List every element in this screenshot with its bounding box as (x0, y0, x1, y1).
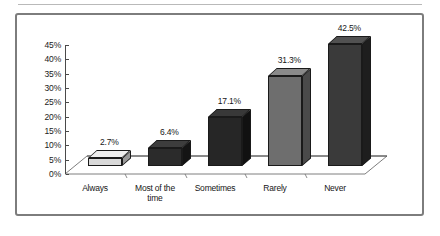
bar-front-face (208, 117, 242, 166)
y-axis-tick-mark (66, 88, 69, 89)
bar-side-face (362, 36, 371, 166)
bar-column (268, 76, 302, 166)
bar-side-face (302, 68, 311, 166)
y-axis-tick-label: 45% (31, 40, 61, 50)
y-axis-tick-label: 35% (31, 69, 61, 79)
y-axis-tick-mark (66, 174, 69, 175)
y-axis-tick-mark (66, 102, 69, 103)
category-label-line2: time (119, 193, 191, 203)
x-axis-tick-mark (305, 174, 307, 178)
y-axis-tick-label: 30% (31, 83, 61, 93)
bar-value-label: 17.1% (205, 96, 253, 106)
y-axis-tick-mark (66, 117, 69, 118)
category-label: Never (299, 183, 371, 193)
y-axis-tick-mark (66, 160, 69, 161)
bar-column (328, 44, 362, 166)
chart-frame: 0%5%10%15%20%25%30%35%40%45% 2.7%6.4%17.… (15, 13, 424, 216)
y-axis-tick-label: 20% (31, 112, 61, 122)
y-axis-tick-label: 40% (31, 54, 61, 64)
y-axis-tick-label: 25% (31, 97, 61, 107)
bar-column (88, 158, 122, 166)
bar-value-label: 42.5% (325, 23, 373, 33)
bar-value-label: 6.4% (145, 127, 193, 137)
bar-value-label: 2.7% (85, 137, 133, 147)
bar-front-face (88, 158, 122, 166)
bar-front-face (328, 44, 362, 166)
bar-column (208, 117, 242, 166)
y-axis-tick-label: 0% (31, 169, 61, 179)
plot-area: 0%5%10%15%20%25%30%35%40%45% 2.7%6.4%17.… (17, 15, 426, 218)
bar-front-face (268, 76, 302, 166)
x-axis-tick-mark (125, 174, 127, 178)
y-axis-tick-mark (66, 59, 69, 60)
y-axis-line (65, 45, 66, 174)
x-axis-tick-mark (185, 174, 187, 178)
top-divider-rule (18, 4, 422, 5)
bar-side-face (242, 109, 251, 166)
bar-column (148, 148, 182, 166)
y-axis-tick-mark (66, 131, 69, 132)
y-axis-tick-label: 5% (31, 155, 61, 165)
y-axis-tick-mark (66, 145, 69, 146)
y-axis-tick-label: 15% (31, 126, 61, 136)
y-axis-tick-label: 10% (31, 140, 61, 150)
y-axis-tick-mark (66, 45, 69, 46)
chart-page: 0%5%10%15%20%25%30%35%40%45% 2.7%6.4%17.… (0, 0, 440, 236)
x-axis-tick-mark (245, 174, 247, 178)
y-axis-tick-mark (66, 74, 69, 75)
bar-front-face (148, 148, 182, 166)
bar-value-label: 31.3% (265, 55, 313, 65)
